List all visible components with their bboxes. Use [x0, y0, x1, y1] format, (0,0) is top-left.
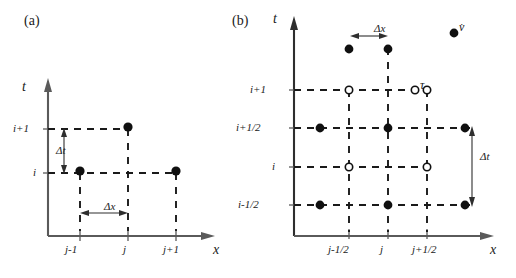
node-filled: [384, 45, 393, 54]
legend-stress-marker: [411, 86, 418, 93]
panel-a-delta-t-arrow: [61, 128, 67, 174]
node-filled: [123, 122, 132, 131]
node-open: [345, 163, 352, 170]
panel-a-delta-x-arrow: [80, 210, 128, 216]
panel-b-delta-x-arrow: [350, 33, 388, 39]
node-open: [345, 86, 352, 93]
node-filled: [461, 124, 470, 133]
x-axis-arrowhead: [201, 232, 215, 240]
node-filled: [461, 201, 470, 210]
panel-a-stencil-dashes: [48, 129, 176, 231]
panel-b-horizontal-dashes: [294, 90, 472, 205]
panel-b-delta-t-arrow: [469, 126, 475, 207]
node-filled: [316, 124, 325, 133]
panel-b-legend-markers: [411, 29, 458, 94]
node-filled: [316, 201, 325, 210]
node-filled: [384, 124, 393, 133]
node-filled: [75, 166, 84, 175]
panel-b-y-axis: [290, 16, 298, 236]
legend-velocity-marker: [450, 29, 459, 38]
node-filled: [171, 166, 180, 175]
node-filled: [345, 45, 354, 54]
node-filled: [384, 201, 393, 210]
y-axis-arrowhead: [290, 16, 298, 30]
node-open: [423, 86, 430, 93]
panel-a-y-axis: [44, 78, 52, 236]
panel-b-nodes-top: [345, 45, 393, 54]
panel-b: (b) t x i+1 i+1/2 i i-1/2 j-1/2 j j+1/2 …: [232, 0, 516, 278]
panel-b-x-axis: [294, 232, 494, 240]
x-axis-arrowhead: [480, 232, 494, 240]
node-open: [423, 163, 430, 170]
panel-a: (a) t x i+1 i j-1 j j+1 Δt Δx: [0, 0, 258, 278]
y-axis-arrowhead: [44, 78, 52, 92]
panel-b-plot: [232, 0, 516, 278]
panel-a-plot: [0, 0, 258, 278]
panel-a-x-axis: [48, 232, 215, 240]
